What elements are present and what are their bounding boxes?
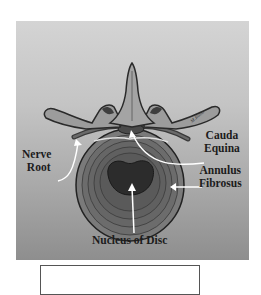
label-cauda-equina-line2: Equina	[204, 142, 240, 155]
label-cauda-equina-line1: Cauda	[204, 129, 240, 142]
label-nucleus-of-disc: Nucleus of Disc	[92, 234, 167, 247]
label-nerve-root-line2: Root	[22, 161, 51, 174]
nerve-root-arrow	[58, 143, 78, 181]
label-nerve-root-line1: Nerve	[22, 148, 51, 161]
label-annulus-fibrosus: Annulus Fibrosus	[199, 164, 242, 190]
label-nerve-root: Nerve Root	[22, 148, 51, 174]
diagram-panel: M.Rollo Nerve Root Cauda Equina Annulus …	[16, 21, 249, 260]
label-cauda-equina: Cauda Equina	[204, 129, 240, 155]
label-annulus-line1: Annulus	[199, 164, 242, 177]
label-annulus-line2: Fibrosus	[199, 177, 242, 190]
caption-box	[40, 265, 200, 295]
intervertebral-disc	[76, 129, 184, 241]
vertebra: M.Rollo	[44, 63, 219, 129]
